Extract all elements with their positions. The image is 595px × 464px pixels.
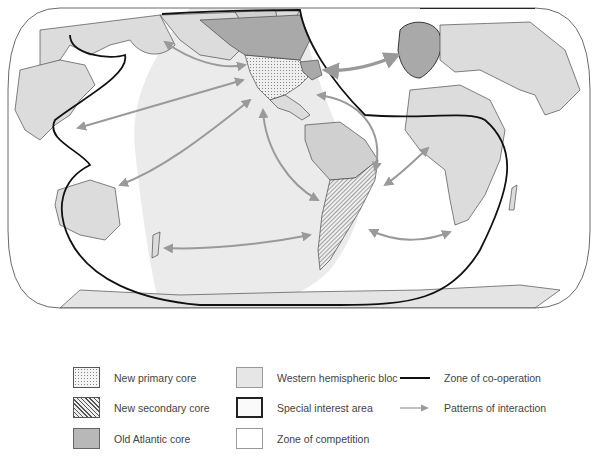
legend-item-old-atlantic-core: Old Atlantic core (73, 428, 190, 449)
zone-of-competition-swatch (236, 428, 263, 449)
zone-of-cooperation-line-icon (400, 377, 430, 379)
legend-label: New secondary core (114, 402, 210, 414)
new-primary-core-swatch (73, 367, 100, 388)
legend-item-new-primary-core: New primary core (73, 367, 196, 388)
world-map (0, 0, 595, 320)
legend-label: Zone of co-operation (444, 372, 541, 384)
special-interest-area-swatch (236, 397, 263, 418)
legend-label: New primary core (114, 372, 196, 384)
legend-item-zone-of-cooperation: Zone of co-operation (400, 372, 541, 384)
legend-item-patterns-of-interaction: Patterns of interaction (400, 402, 546, 414)
legend-item-western-hemispheric-bloc: Western hemispheric bloc (236, 367, 398, 388)
legend-label: Special interest area (277, 402, 373, 414)
old-atlantic-core-swatch (73, 428, 100, 449)
legend-item-new-secondary-core: New secondary core (73, 397, 210, 418)
legend-label: Zone of competition (277, 433, 369, 445)
legend-item-zone-of-competition: Zone of competition (236, 428, 369, 449)
legend-label: Old Atlantic core (114, 433, 190, 445)
western-hemispheric-bloc-swatch (236, 367, 263, 388)
legend-label: Patterns of interaction (444, 402, 546, 414)
new-secondary-core-swatch (73, 397, 100, 418)
legend-label: Western hemispheric bloc (277, 372, 398, 384)
interaction-arrow-icon (400, 403, 430, 413)
legend-item-special-interest-area: Special interest area (236, 397, 373, 418)
